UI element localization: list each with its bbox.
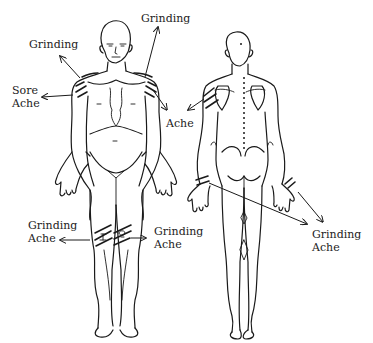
back-figure (188, 32, 295, 339)
label-left-knee: Grinding Ache (154, 225, 203, 251)
label-left-shoulder-top: Grinding (29, 38, 78, 51)
body-pain-diagram: Grinding Grinding Sore Ache Ache Grindin… (0, 0, 373, 343)
annotation-arrows (42, 27, 323, 240)
label-right-shoulder-side: Ache (166, 117, 194, 130)
front-figure (55, 21, 176, 337)
body-figures (0, 0, 373, 343)
label-right-knee: Grinding Ache (28, 219, 77, 245)
label-wrists: Grinding Ache (312, 228, 361, 254)
label-right-shoulder-top: Grinding (141, 12, 190, 25)
label-left-shoulder-side: Sore Ache (12, 84, 40, 110)
